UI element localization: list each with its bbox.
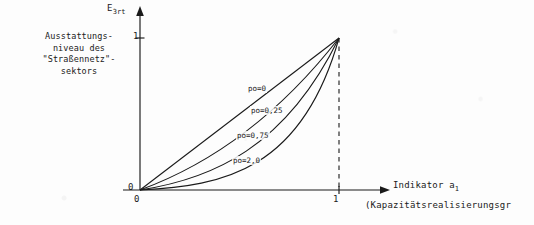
- y-tick-label-one: 1: [133, 31, 138, 41]
- y-axis-caption-line-3: "Straßennetz"-: [18, 54, 140, 66]
- x-axis-label: Indikator a1: [393, 180, 459, 193]
- x-tick-label-one: 1: [333, 194, 338, 204]
- curve-label-po-2-0: po=2,0: [232, 156, 261, 165]
- y-axis-caption-line-4: sektors: [18, 66, 140, 78]
- x-axis-label-second-line: (Kapazitätsrealisierungsgr: [365, 200, 511, 210]
- curve-po-0: [140, 38, 339, 190]
- figure-page: E3rt Ausstattungs- niveau des "Straßenne…: [0, 0, 534, 225]
- y-axis-caption: Ausstattungs- niveau des "Straßennetz"- …: [18, 31, 140, 77]
- y-tick-label-origin: 0: [128, 182, 133, 192]
- x-tick-label-origin: 0: [134, 194, 139, 204]
- y-axis-label-subscript: 3rt: [113, 8, 126, 16]
- x-axis-label-subscript: 1: [455, 185, 459, 193]
- y-axis-label: E3rt: [107, 3, 126, 16]
- curve-label-po-0-75: po=0,75: [236, 131, 270, 140]
- y-axis-arrowhead: [136, 6, 144, 16]
- x-axis-label-main: Indikator a: [393, 180, 455, 190]
- x-axis-arrowhead: [380, 186, 390, 194]
- curve-label-po-0: po=0: [247, 84, 267, 93]
- curve-label-po-0-25: po=0,25: [250, 106, 284, 115]
- y-axis-caption-line-2: niveau des: [18, 43, 140, 55]
- y-axis-caption-line-1: Ausstattungs-: [18, 31, 140, 43]
